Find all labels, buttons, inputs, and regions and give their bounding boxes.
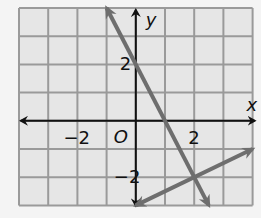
x-tick-label: 2 [188,127,199,148]
origin-label: O [114,126,128,147]
y-tick-label: 2 [120,53,131,74]
y-axis-label: y [145,9,157,30]
x-axis-label: x [246,94,258,115]
x-tick-label: −2 [63,127,90,148]
y-tick-label: −2 [114,166,141,187]
coordinate-plane: xyO−222−2 [0,0,261,218]
